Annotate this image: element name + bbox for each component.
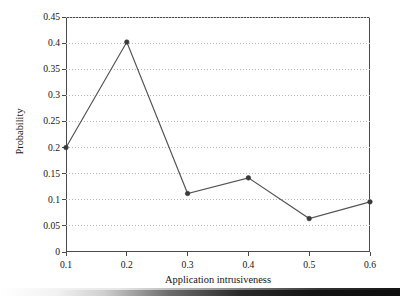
y-tick-label: 0.4 — [10, 38, 60, 48]
series-line-probability — [66, 42, 370, 219]
y-tick-label: 0.1 — [10, 195, 60, 205]
y-tick-label: 0.45 — [10, 12, 60, 22]
data-point-marker — [64, 145, 69, 150]
y-tick-label: 0.35 — [10, 64, 60, 74]
x-tick-label: 0.5 — [303, 260, 315, 270]
data-point-marker — [185, 191, 190, 196]
data-point-marker — [125, 40, 130, 45]
y-tick-label: 0.05 — [10, 221, 60, 231]
chart-figure: 00.050.10.150.20.250.30.350.40.45 0.10.2… — [0, 0, 400, 296]
data-series-probability — [66, 42, 370, 219]
data-point-marker — [307, 216, 312, 221]
x-tick-label: 0.6 — [364, 260, 376, 270]
x-tick-label: 0.1 — [60, 260, 72, 270]
x-axis-title: Application intrusiveness — [66, 274, 370, 285]
x-axis-ticks — [66, 252, 370, 256]
data-point-marker — [368, 200, 373, 205]
x-tick-label: 0.4 — [242, 260, 254, 270]
y-tick-label: 0 — [10, 247, 60, 257]
x-tick-label: 0.3 — [182, 260, 194, 270]
y-axis-ticks — [62, 17, 66, 252]
bottom-shadow-band — [0, 290, 400, 296]
data-point-marker — [246, 176, 251, 181]
gridlines — [66, 17, 370, 226]
x-tick-label: 0.2 — [121, 260, 133, 270]
chart-canvas — [0, 0, 400, 296]
y-axis-title: Probability — [14, 77, 25, 187]
data-point-markers — [64, 40, 373, 221]
